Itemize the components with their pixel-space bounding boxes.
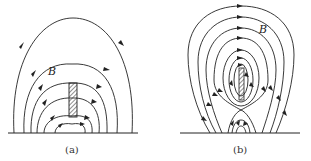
arrow-icon <box>96 84 102 89</box>
arrow-icon <box>261 86 266 92</box>
magnet-bar-b <box>239 68 244 100</box>
arrow-icon <box>237 56 243 60</box>
arrow-icon <box>268 85 273 91</box>
panel-label-a: (a) <box>65 144 79 155</box>
panel-b: B (b) <box>180 4 300 155</box>
arrow-icon <box>237 26 243 30</box>
arrow-icon <box>237 48 243 52</box>
arrow-icon <box>118 40 124 46</box>
arrow-icon <box>212 92 218 96</box>
arrow-icon <box>19 42 24 49</box>
field-line-b-5 <box>232 120 250 133</box>
arrow-icon <box>84 115 90 120</box>
arrow-icon <box>91 99 97 104</box>
arrow-icon <box>237 15 243 19</box>
panel-a: B (a) <box>8 18 138 155</box>
arrow-icon <box>237 4 243 8</box>
arrow-icon <box>38 84 43 91</box>
magnet-bar-a <box>69 83 77 117</box>
arrow-icon <box>244 72 249 77</box>
arrow-icon <box>217 88 223 92</box>
arrow-icon <box>58 123 63 128</box>
panel-label-b: (b) <box>233 144 247 155</box>
field-label-b: B <box>258 23 267 36</box>
arrow-icon <box>103 67 110 71</box>
arrow-icon <box>237 36 243 40</box>
arrow-icon <box>31 70 36 77</box>
field-line-b-6 <box>236 126 246 133</box>
arrow-icon <box>42 99 47 106</box>
field-label-a: B <box>47 65 56 78</box>
figure: B (a) <box>0 0 311 161</box>
